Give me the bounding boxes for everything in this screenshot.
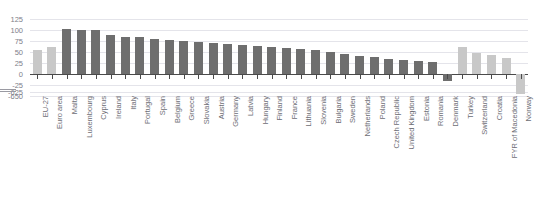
x-axis-labels: EU-27Euro areaMaltaLuxembourgCyprusIrela…: [30, 96, 528, 200]
x-axis-tick: [242, 74, 243, 79]
bar: [399, 60, 408, 74]
bar-group: [89, 6, 104, 94]
bar-group: [396, 6, 411, 94]
x-axis-tick-label: Greece: [187, 96, 197, 121]
x-axis-tick-label: Ireland: [114, 96, 124, 119]
x-axis-tick-label: FYR of Macedonia: [510, 96, 520, 158]
bar: [33, 50, 42, 74]
bar-group: [235, 6, 250, 94]
x-axis-tick-label: France: [290, 96, 300, 119]
x-axis-tick: [491, 74, 492, 79]
x-axis-tick-label: Estonia: [422, 96, 432, 121]
x-axis-tick-label: Portugal: [143, 96, 153, 124]
x-axis-tick-label: Croatia: [495, 96, 505, 120]
x-axis-tick: [37, 74, 38, 79]
bar: [487, 55, 496, 74]
x-axis-tick: [125, 74, 126, 79]
x-axis-tick: [462, 74, 463, 79]
bar-group: [352, 6, 367, 94]
x-axis-tick: [418, 74, 419, 79]
bar-group: [162, 6, 177, 94]
bar-group: [220, 6, 235, 94]
x-axis-tick: [447, 74, 448, 79]
bar-group: [191, 6, 206, 94]
y-axis-tick-label: 25: [0, 60, 23, 67]
bar: [179, 41, 188, 74]
x-axis-tick: [257, 74, 258, 79]
x-axis-tick: [228, 74, 229, 79]
x-axis-tick-label: Turkey: [466, 96, 476, 119]
bar: [355, 56, 364, 74]
x-axis-tick: [140, 74, 141, 79]
bar: [106, 35, 115, 74]
bar-group: [250, 6, 265, 94]
x-axis-tick-label: Euro area: [55, 96, 65, 129]
x-axis-tick: [433, 74, 434, 79]
bar: [238, 45, 247, 74]
y-axis-tick-label: 75: [0, 38, 23, 45]
x-axis-tick: [184, 74, 185, 79]
x-axis-tick-label: Slovenia: [319, 96, 329, 125]
bar-group: [425, 6, 440, 94]
bar-group: [133, 6, 148, 94]
x-axis-tick: [155, 74, 156, 79]
bar-group: [455, 6, 470, 94]
bar: [267, 47, 276, 74]
x-axis-tick-label: Luxembourg: [85, 96, 95, 138]
x-axis-tick-label: Italy: [129, 96, 139, 110]
x-axis-tick-label: EU-27: [41, 96, 51, 117]
x-axis-tick-label: Spain: [158, 96, 168, 115]
x-axis-tick: [286, 74, 287, 79]
bar: [165, 40, 174, 74]
bar: [91, 30, 100, 74]
bar: [458, 47, 467, 74]
x-axis-tick: [345, 74, 346, 79]
x-axis-tick: [360, 74, 361, 79]
bar-group: [411, 6, 426, 94]
bar-group: [279, 6, 294, 94]
x-axis-tick-label: Cyprus: [99, 96, 109, 120]
bar: [47, 47, 56, 74]
x-axis-tick: [506, 74, 507, 79]
bar-group: [499, 6, 514, 94]
x-axis-tick: [389, 74, 390, 79]
bar: [209, 43, 218, 74]
bar: [77, 30, 86, 74]
bar-group: [484, 6, 499, 94]
x-axis-tick: [374, 74, 375, 79]
plot-area: 1251007550250-25-625-650: [30, 6, 528, 94]
bar-group: [59, 6, 74, 94]
x-axis-tick-label: Switzerland: [480, 96, 490, 135]
x-axis-tick-label: Bulgaria: [334, 96, 344, 124]
bar-group: [469, 6, 484, 94]
x-axis-tick-label: Poland: [378, 96, 388, 119]
bar-group: [308, 6, 323, 94]
bar: [135, 37, 144, 74]
bar: [150, 39, 159, 74]
x-axis-tick-label: Austria: [217, 96, 227, 119]
x-axis-tick: [81, 74, 82, 79]
bar-group: [513, 6, 528, 94]
bar: [326, 52, 335, 74]
y-axis-tick-label: -650: [0, 93, 23, 100]
x-axis-tick-label: Lithuania: [304, 96, 314, 126]
bar-group: [323, 6, 338, 94]
bar-group: [74, 6, 89, 94]
bar: [502, 58, 511, 74]
x-axis-tick: [52, 74, 53, 79]
x-axis-tick: [111, 74, 112, 79]
bar-group: [440, 6, 455, 94]
x-axis-tick-label: Netherlands: [363, 96, 373, 136]
x-axis-tick: [404, 74, 405, 79]
x-axis-tick: [213, 74, 214, 79]
bar-group: [367, 6, 382, 94]
y-axis-tick-label: 100: [0, 27, 23, 34]
x-axis-tick-label: Slovakia: [202, 96, 212, 124]
bar-group: [338, 6, 353, 94]
x-axis-tick: [198, 74, 199, 79]
x-axis-tick: [272, 74, 273, 79]
x-axis-tick: [477, 74, 478, 79]
bar: [340, 54, 349, 74]
x-axis-tick-label: Belgium: [173, 96, 183, 123]
bar: [384, 59, 393, 74]
